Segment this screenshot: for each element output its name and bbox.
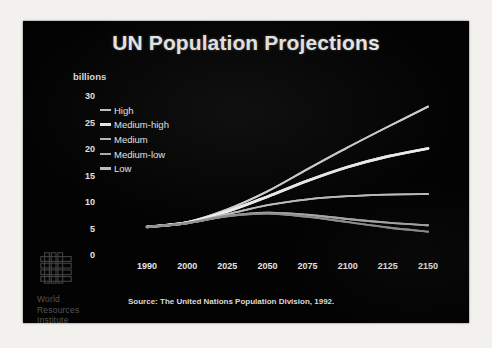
legend-swatch-icon	[100, 153, 111, 155]
wri-name-line-1: World	[37, 294, 99, 305]
legend-item-medium-high[interactable]: Medium-high	[100, 118, 169, 133]
legend-item-low[interactable]: Low	[100, 161, 169, 176]
presentation-slide: UN Population Projections billions 30252…	[23, 21, 469, 323]
world-resources-institute-logo: World Resources Institute	[37, 249, 99, 323]
wri-name-line-3: Institute	[37, 315, 99, 323]
legend-swatch-icon	[100, 123, 111, 126]
legend-swatch-icon	[100, 138, 111, 140]
wri-name: World Resources Institute	[37, 294, 99, 323]
legend-item-label: Low	[114, 163, 131, 174]
legend-item-label: Medium-low	[114, 149, 165, 160]
legend-item-label: Medium-high	[114, 119, 169, 130]
wri-name-line-2: Resources	[37, 305, 99, 316]
wri-weave-mark-icon	[37, 249, 75, 287]
legend-item-medium-low[interactable]: Medium-low	[100, 147, 169, 162]
legend-item-label: Medium	[114, 134, 148, 145]
legend-item-high[interactable]: High	[100, 103, 169, 118]
curve-high	[147, 107, 428, 227]
source-note: Source: The United Nations Population Di…	[128, 297, 334, 306]
legend-item-label: High	[114, 105, 134, 116]
legend-item-medium[interactable]: Medium	[100, 132, 169, 147]
legend-swatch-icon	[100, 167, 111, 170]
legend-swatch-icon	[100, 109, 111, 111]
slide-photo-frame: UN Population Projections billions 30252…	[0, 0, 492, 348]
chart-legend: HighMedium-highMediumMedium-lowLow	[100, 103, 169, 176]
